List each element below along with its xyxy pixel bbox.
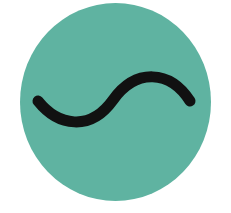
ac-sine-wave-icon — [0, 0, 231, 213]
canvas: AC sine wave symbol — [0, 0, 231, 213]
